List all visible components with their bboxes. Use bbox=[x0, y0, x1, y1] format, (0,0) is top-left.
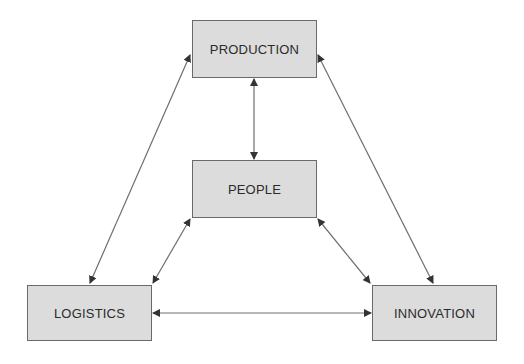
edge-production-innovation bbox=[318, 55, 433, 283]
node-label: PRODUCTION bbox=[210, 42, 299, 57]
node-label: PEOPLE bbox=[228, 182, 281, 197]
node-people: PEOPLE bbox=[192, 160, 317, 218]
node-label: LOGISTICS bbox=[54, 306, 125, 321]
node-production: PRODUCTION bbox=[192, 20, 317, 78]
edge-production-logistics bbox=[90, 55, 190, 283]
node-innovation: INNOVATION bbox=[372, 285, 497, 341]
edge-people-logistics bbox=[153, 219, 190, 283]
node-logistics: LOGISTICS bbox=[27, 285, 152, 341]
node-label: INNOVATION bbox=[394, 306, 475, 321]
edge-people-innovation bbox=[318, 219, 370, 283]
